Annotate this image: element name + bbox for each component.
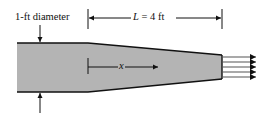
length-label: L = 4 ft <box>131 12 166 23</box>
length-symbol: L <box>133 11 139 22</box>
nozzle-diagram: 1-ft diameter L = 4 ft x <box>0 0 268 124</box>
length-equals: = <box>141 11 147 22</box>
position-label: x <box>118 61 125 72</box>
position-symbol: x <box>119 60 124 71</box>
diameter-label: 1-ft diameter <box>15 12 70 23</box>
jet-streams <box>222 57 256 77</box>
length-value: 4 ft <box>150 11 164 22</box>
